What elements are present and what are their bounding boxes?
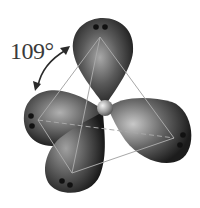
bond-angle-label: 109°: [10, 38, 54, 65]
electron-dot: [180, 132, 186, 138]
electron-dot: [102, 24, 108, 30]
electron-dot: [93, 24, 99, 30]
central-atom: [97, 100, 113, 116]
electron-dot: [177, 142, 183, 148]
electron-dot: [59, 178, 65, 184]
electron-dot: [29, 123, 35, 129]
electron-dot: [67, 182, 73, 188]
orbital-diagram: 109°: [0, 0, 200, 208]
electron-dot: [28, 113, 34, 119]
